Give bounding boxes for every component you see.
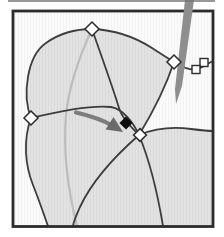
- figure-canvas: [0, 0, 224, 237]
- diagram-svg: [0, 0, 224, 237]
- control-point-square-outer[interactable]: [200, 59, 208, 67]
- control-point-square-inner[interactable]: [192, 66, 200, 74]
